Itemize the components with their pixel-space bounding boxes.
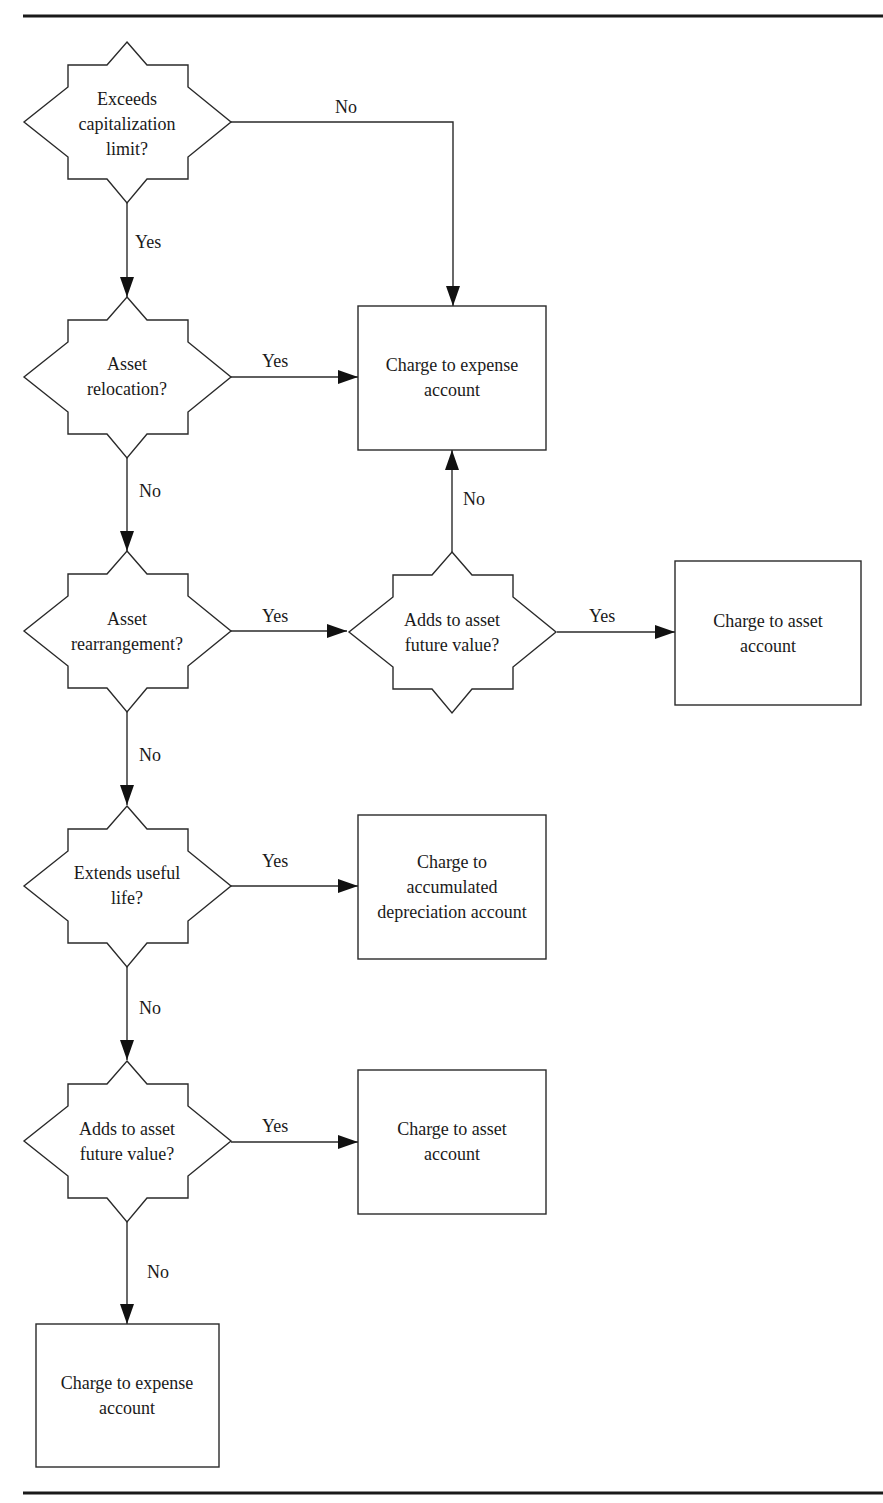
decision-text-line: rearrangement?	[71, 632, 183, 657]
edge-label-d6-no: No	[147, 1262, 169, 1282]
decision-text-line: Extends useful	[74, 861, 180, 886]
decision-adds-to-future-value-1: Adds to asset future value?	[404, 608, 500, 658]
outcome-text-expense-1: Charge to expense account	[386, 353, 519, 403]
decision-text-line: Asset	[87, 352, 167, 377]
outcome-text-line: account	[386, 378, 519, 403]
decision-exceeds-capitalization-limit: Exceeds capitalization limit?	[79, 87, 176, 162]
decision-text-line: Adds to asset	[404, 608, 500, 633]
decision-adds-to-future-value-2: Adds to asset future value?	[79, 1117, 175, 1167]
edge-label-d5-yes: Yes	[262, 851, 288, 871]
decision-text-line: future value?	[404, 633, 500, 658]
outcome-text-line: account	[713, 634, 823, 659]
outcome-text-line: Charge to expense	[61, 1371, 194, 1396]
decision-text-line: life?	[74, 886, 180, 911]
decision-asset-relocation: Asset relocation?	[87, 352, 167, 402]
decision-text-line: Exceeds	[79, 87, 176, 112]
outcome-text-expense-2: Charge to expense account	[61, 1371, 194, 1421]
decision-text-line: Asset	[71, 607, 183, 632]
outcome-text-line: Charge to	[377, 850, 526, 875]
edge-label-d2-no: No	[139, 481, 161, 501]
outcome-text-line: Charge to asset	[397, 1117, 507, 1142]
edge-d1-no	[231, 122, 453, 306]
edge-label-d3-yes: Yes	[262, 606, 288, 626]
decision-text-line: Adds to asset	[79, 1117, 175, 1142]
edge-label-d1-yes: Yes	[135, 232, 161, 252]
edge-label-d5-no: No	[139, 998, 161, 1018]
outcome-text-line: depreciation account	[377, 900, 526, 925]
decision-text-line: capitalization	[79, 112, 176, 137]
decision-asset-rearrangement: Asset rearrangement?	[71, 607, 183, 657]
edge-label-d4-yes: Yes	[589, 606, 615, 626]
edge-label-d6-yes: Yes	[262, 1116, 288, 1136]
decision-text-line: future value?	[79, 1142, 175, 1167]
outcome-text-line: Charge to asset	[713, 609, 823, 634]
outcome-text-accumulated-depreciation: Charge to accumulated depreciation accou…	[377, 850, 526, 925]
outcome-text-asset-2: Charge to asset account	[397, 1117, 507, 1167]
outcome-text-line: account	[397, 1142, 507, 1167]
outcome-text-asset-1: Charge to asset account	[713, 609, 823, 659]
edge-label-d3-no: No	[139, 745, 161, 765]
edge-label-d1-no: No	[335, 97, 357, 117]
decision-text-line: relocation?	[87, 377, 167, 402]
outcome-text-line: Charge to expense	[386, 353, 519, 378]
flowchart-canvas	[0, 0, 883, 1503]
edge-label-d4-no: No	[463, 489, 485, 509]
outcome-text-line: account	[61, 1396, 194, 1421]
decision-text-line: limit?	[79, 137, 176, 162]
outcome-text-line: accumulated	[377, 875, 526, 900]
edge-label-d2-yes: Yes	[262, 351, 288, 371]
decision-extends-useful-life: Extends useful life?	[74, 861, 180, 911]
